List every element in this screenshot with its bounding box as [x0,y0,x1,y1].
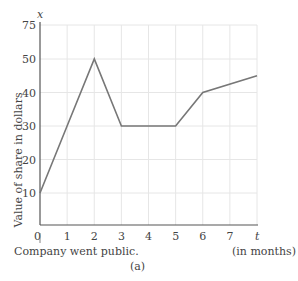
figure-caption: (a) [130,260,145,273]
y-tick-75: 75 [22,19,36,32]
x-tick-3: 3 [118,230,125,243]
y-axis-title: Value of share in dollars [12,92,25,228]
x-tick-7: 7 [226,230,233,243]
x-tick-2: 2 [91,230,98,243]
x-tick-1: 1 [64,230,71,243]
x-tick-5: 5 [172,230,179,243]
annotation-company-public: Company went public. [14,245,139,258]
y-tick-50: 50 [22,53,36,66]
x-tick-6: 6 [199,230,206,243]
x-tick-4: 4 [145,230,152,243]
share-value-chart: 102030405075 1234567 x 0 t (in months) C… [0,0,298,281]
y-axis-letter: x [37,8,44,21]
x-axis-letter: t [255,230,260,243]
grid [40,25,257,225]
x-tick-labels: 1234567 [64,230,234,243]
x-unit-label: (in months) [232,245,296,258]
